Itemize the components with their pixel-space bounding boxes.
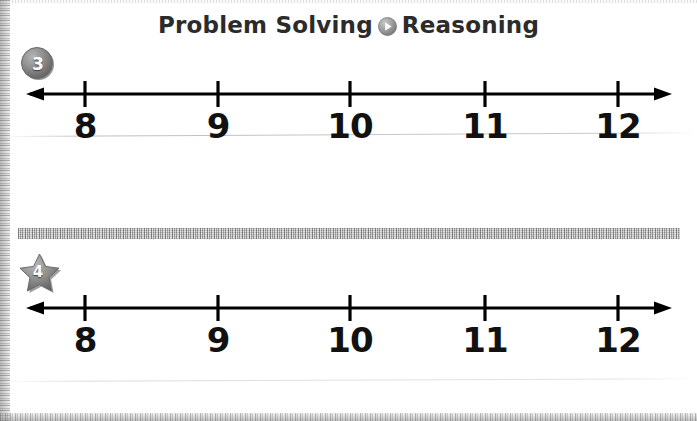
header-title-problem-solving: Problem Solving (158, 12, 373, 38)
tick-label: 8 (74, 106, 97, 146)
scan-seam-lower (0, 378, 697, 382)
tick-label: 9 (207, 106, 230, 146)
number-line-4: 8 9 10 11 12 (0, 290, 697, 376)
number-line-4-labels: 8 9 10 11 12 (0, 320, 697, 368)
scan-edge-bottom (0, 413, 697, 421)
tick-label: 10 (327, 106, 372, 146)
scan-edge-top (0, 0, 697, 3)
tick-label: 11 (462, 320, 507, 360)
tick-label: 10 (327, 320, 372, 360)
tick-label: 9 (207, 320, 230, 360)
number-line-3-labels: 8 9 10 11 12 (0, 106, 697, 154)
play-circle-icon (378, 17, 397, 36)
worksheet-page: Problem Solving Reasoning (0, 0, 697, 421)
section-divider (18, 228, 680, 239)
exercise-badge-4: 4 (18, 252, 58, 292)
tick-label: 8 (74, 320, 97, 360)
tick-label: 11 (462, 106, 507, 146)
header-title-reasoning: Reasoning (402, 12, 539, 38)
page-header: Problem Solving Reasoning (0, 12, 697, 38)
tick-label: 12 (595, 320, 640, 360)
tick-label: 12 (595, 106, 640, 146)
number-line-3: 8 9 10 11 12 (0, 76, 697, 162)
